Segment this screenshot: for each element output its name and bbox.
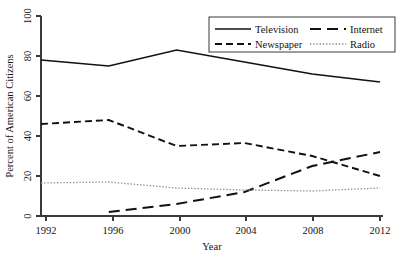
x-axis-tick-labels: 1992 1996 2000 2004 2008 2012 <box>36 225 391 236</box>
x-tick-label-1996: 1996 <box>103 225 124 236</box>
y-tick-label-40: 40 <box>22 131 33 142</box>
y-axis-title: Percent of American Citizens <box>4 54 15 177</box>
y-tick-label-80: 80 <box>22 51 33 62</box>
x-tick-label-2008: 2008 <box>303 225 324 236</box>
line-chart-canvas: 0 20 40 60 80 100 Percent of American Ci… <box>0 0 404 264</box>
x-tick-label-2012: 2012 <box>370 225 391 236</box>
legend-label-radio: Radio <box>350 39 375 50</box>
y-tick-label-0: 0 <box>22 213 33 218</box>
chart-figure: 0 20 40 60 80 100 Percent of American Ci… <box>0 0 404 264</box>
series-line-radio <box>41 182 380 191</box>
legend-label-newspaper: Newspaper <box>255 39 303 50</box>
series-line-internet <box>109 152 380 212</box>
x-axis-title: Year <box>202 241 222 252</box>
legend-label-television: Television <box>255 24 299 35</box>
y-axis-ticks <box>36 16 41 216</box>
x-tick-label-2004: 2004 <box>236 225 258 236</box>
x-axis-ticks <box>46 216 380 221</box>
y-tick-label-60: 60 <box>22 91 33 102</box>
series-group <box>41 50 380 212</box>
x-tick-label-1992: 1992 <box>36 225 57 236</box>
series-line-television <box>41 50 380 82</box>
legend-label-internet: Internet <box>350 24 383 35</box>
y-tick-label-100: 100 <box>22 8 33 24</box>
y-axis-tick-labels: 0 20 40 60 80 100 <box>22 8 33 219</box>
legend: Television Internet Newspaper Radio <box>209 17 395 52</box>
series-line-newspaper <box>41 120 380 176</box>
y-tick-label-20: 20 <box>22 171 33 182</box>
x-tick-label-2000: 2000 <box>170 225 191 236</box>
